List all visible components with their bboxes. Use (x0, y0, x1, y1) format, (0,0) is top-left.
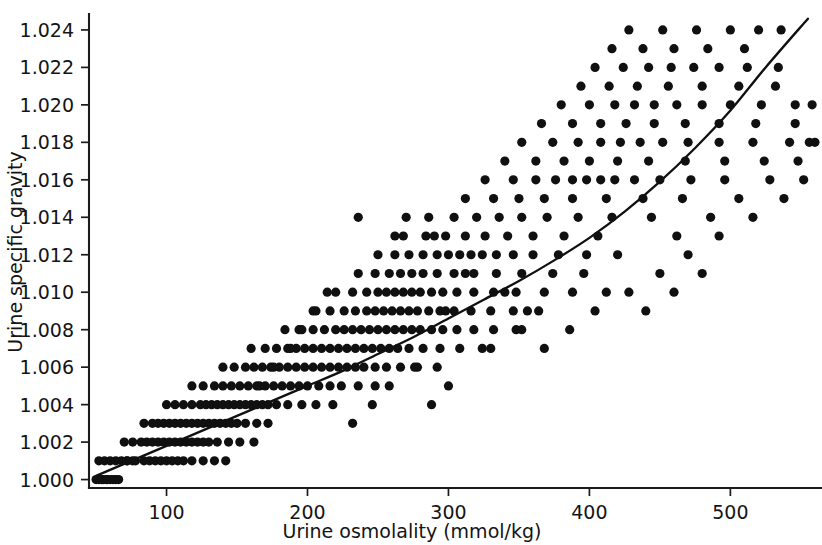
y-tick-label: 1.006 (20, 356, 74, 378)
data-point (224, 438, 233, 447)
data-point (793, 156, 802, 165)
data-point (715, 138, 724, 147)
data-point (650, 119, 659, 128)
data-point (517, 325, 526, 334)
data-point (328, 400, 337, 409)
data-point (590, 63, 599, 72)
data-point (771, 82, 780, 91)
data-point (740, 44, 749, 53)
data-point (537, 119, 546, 128)
data-point (481, 175, 490, 184)
data-point (624, 288, 633, 297)
data-point (512, 288, 521, 297)
data-point (255, 381, 264, 390)
data-point (424, 306, 433, 315)
data-point (438, 288, 447, 297)
data-point (187, 400, 196, 409)
data-point (610, 175, 619, 184)
data-point (399, 288, 408, 297)
data-point (334, 344, 343, 353)
data-point (706, 213, 715, 222)
data-point (213, 438, 222, 447)
data-point (517, 138, 526, 147)
data-point (774, 63, 783, 72)
data-point (548, 138, 557, 147)
data-point (418, 344, 427, 353)
data-point (692, 25, 701, 34)
data-point (540, 344, 549, 353)
data-point (433, 269, 442, 278)
data-point (292, 363, 301, 372)
data-point (582, 175, 591, 184)
data-point (342, 344, 351, 353)
data-point (280, 325, 289, 334)
data-point (235, 381, 244, 390)
data-point (469, 269, 478, 278)
data-point (390, 231, 399, 240)
data-point (810, 138, 819, 147)
data-point (325, 306, 334, 315)
data-point (252, 419, 261, 428)
data-point (590, 306, 599, 315)
data-point (514, 194, 523, 203)
data-point (269, 363, 278, 372)
data-point (726, 25, 735, 34)
data-point (582, 250, 591, 259)
data-point (568, 194, 577, 203)
data-point (799, 175, 808, 184)
data-point (179, 456, 188, 465)
data-point (658, 138, 667, 147)
data-point (638, 44, 647, 53)
data-point (258, 363, 267, 372)
data-point (286, 344, 295, 353)
data-point (311, 400, 320, 409)
data-point (568, 119, 577, 128)
data-point (621, 119, 630, 128)
y-tick-label: 1.000 (20, 469, 74, 491)
data-point (424, 213, 433, 222)
data-point (486, 306, 495, 315)
data-point (681, 119, 690, 128)
data-point (557, 100, 566, 109)
data-point (644, 156, 653, 165)
data-point (325, 381, 334, 390)
data-point (624, 25, 633, 34)
data-point (351, 306, 360, 315)
data-point (574, 213, 583, 222)
data-point (230, 363, 239, 372)
data-point (227, 381, 236, 390)
data-point (808, 100, 817, 109)
data-point (210, 381, 219, 390)
data-point (435, 344, 444, 353)
data-point (337, 381, 346, 390)
data-point (297, 325, 306, 334)
data-point (528, 250, 537, 259)
data-point (359, 363, 368, 372)
data-point (686, 175, 695, 184)
data-point (309, 344, 318, 353)
y-tick-label: 1.016 (20, 169, 74, 191)
data-point (698, 82, 707, 91)
data-point (472, 213, 481, 222)
data-point (672, 100, 681, 109)
data-point (559, 231, 568, 240)
data-point (402, 213, 411, 222)
data-point (320, 325, 329, 334)
data-point (489, 194, 498, 203)
data-point (683, 138, 692, 147)
data-point (210, 456, 219, 465)
data-point (418, 250, 427, 259)
data-point (396, 306, 405, 315)
x-tick-label: 100 (148, 501, 184, 523)
data-point (495, 213, 504, 222)
data-point (486, 344, 495, 353)
data-point (559, 156, 568, 165)
data-point (596, 175, 605, 184)
data-point (300, 363, 309, 372)
data-point (751, 119, 760, 128)
data-point (785, 138, 794, 147)
data-point (354, 381, 363, 390)
data-point (452, 288, 461, 297)
data-point (368, 400, 377, 409)
data-point (325, 344, 334, 353)
